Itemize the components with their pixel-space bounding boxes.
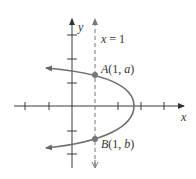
y-axis-label: y [77, 20, 84, 34]
point-b-label: B(1, b) [101, 137, 134, 151]
y-axis: y [67, 19, 84, 168]
x-axis: x [14, 102, 187, 124]
parabola-curve [46, 68, 134, 148]
point-a: A(1, a) [92, 62, 134, 78]
point-a-label: A(1, a) [100, 62, 134, 76]
x-axis-label: x [180, 110, 187, 124]
parabola-diagram: x y x = 1 A(1, a) [0, 0, 196, 179]
vertical-line-label: x = 1 [100, 32, 125, 46]
